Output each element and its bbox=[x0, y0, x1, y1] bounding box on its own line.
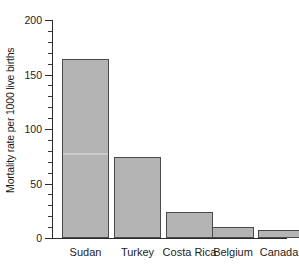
bar-turkey bbox=[114, 157, 161, 238]
x-axis-line bbox=[52, 238, 287, 239]
x-label-canada: Canada bbox=[234, 247, 299, 258]
bars-group bbox=[0, 0, 299, 238]
y-tick-major bbox=[45, 238, 52, 239]
bar-belgium bbox=[212, 227, 254, 238]
bar-sudan bbox=[62, 59, 109, 238]
bar-chart: Mortality rate per 1000 live births 2001… bbox=[0, 0, 299, 269]
bar-canada bbox=[258, 230, 299, 238]
bar-costa-rica bbox=[166, 212, 213, 238]
